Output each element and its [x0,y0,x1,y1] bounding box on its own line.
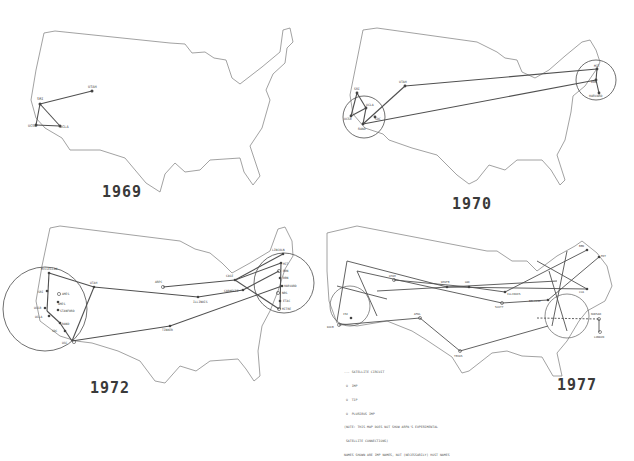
us-outline [36,226,293,383]
regional-circle-east [545,294,589,338]
svg-text:NORSAR: NORSAR [591,312,601,316]
us-network-map: McCLELLAN SRI AMES AMES UCSB STANFORD UC… [0,211,317,422]
svg-text:BBN: BBN [283,276,289,280]
network-links [36,91,92,126]
svg-text:UTAH: UTAH [389,274,396,278]
svg-text:TINKER: TINKER [162,328,173,332]
year-label: 1977 [557,376,597,394]
svg-text:CCA: CCA [579,290,584,294]
network-nodes: SRI UTAH UCSB UCLA [28,85,97,129]
year-label: 1969 [102,183,142,201]
svg-text:STANFORD: STANFORD [60,309,75,313]
svg-text:SRI: SRI [354,87,360,91]
svg-text:BBN: BBN [283,269,289,273]
network-nodes: SRI UTAH UCLA UCSB SDC RAND MIT BBN HARV… [344,64,603,131]
svg-text:ILLINOIS: ILLINOIS [193,300,208,304]
svg-text:BBN: BBN [591,80,597,84]
regional-circle-west [330,286,370,326]
map-panel-1977: UTAH ISI WPAFB GWC BBN MIT ILLINOIS TEXA… [317,211,634,422]
svg-text:TEXAS: TEXAS [454,354,463,358]
svg-text:SDC: SDC [375,117,381,121]
svg-text:UCSB: UCSB [344,117,352,121]
legend-item: O IMP [344,384,450,389]
svg-text:ILLINOIS: ILLINOIS [507,292,521,296]
us-outline [31,28,293,192]
svg-text:DOCB: DOCB [327,325,334,329]
us-network-map: SRI UTAH UCLA UCSB SDC RAND MIT BBN HARV… [317,0,634,211]
legend-note: SATELLITE CONNECTIONS) [344,439,450,444]
svg-text:SDC: SDC [52,329,58,333]
svg-text:HARVARD: HARVARD [589,94,603,98]
svg-text:BBN: BBN [579,244,584,248]
svg-text:ISI: ISI [343,312,348,316]
svg-text:MIT: MIT [594,64,600,68]
year-label: 1972 [90,379,130,397]
network-links [337,250,599,351]
svg-text:UTAH: UTAH [90,281,97,285]
svg-text:LONDON: LONDON [594,335,604,339]
svg-text:SRI: SRI [38,290,44,294]
svg-text:UCSB: UCSB [28,124,37,128]
map-panel-1972: McCLELLAN SRI AMES AMES UCSB STANFORD UC… [0,211,317,422]
svg-text:ARPC: ARPC [155,280,162,284]
svg-text:USC: USC [62,341,68,345]
svg-text:UCSB: UCSB [34,306,41,310]
svg-text:WPAFB: WPAFB [441,280,450,284]
map-panel-1969: SRI UTAH UCSB UCLA 1969 [0,0,317,211]
legend-note: (NOTE: THIS MAP DOES NOT SHOW ARPA'S EXP… [344,425,450,430]
svg-text:AMES: AMES [58,302,65,306]
svg-text:UCLA: UCLA [35,315,42,319]
svg-text:BELVOIR: BELVOIR [529,299,541,303]
legend-item: O PLURIBUS IMP [344,412,450,417]
us-outline [350,28,600,185]
network-links [351,69,599,124]
svg-text:MIT: MIT [601,254,606,258]
svg-text:UCLA: UCLA [60,125,69,129]
svg-text:RAND: RAND [62,322,69,326]
map-panel-1970: SRI UTAH UCLA UCSB SDC RAND MIT BBN HARV… [317,0,634,211]
svg-text:AFWL: AFWL [414,312,421,316]
svg-text:ETAC: ETAC [283,299,290,303]
us-network-map: SRI UTAH UCSB UCLA [0,0,317,211]
svg-text:MIT: MIT [283,262,289,266]
svg-text:McCLELLAN: McCLELLAN [41,267,57,271]
svg-text:LINCOLN: LINCOLN [272,248,285,252]
us-outline [327,226,612,376]
svg-text:HARVARD: HARVARD [284,284,297,288]
svg-text:UCLA: UCLA [366,103,374,107]
svg-text:GWC: GWC [465,280,470,284]
svg-text:MITRE: MITRE [282,307,291,311]
svg-text:SRI: SRI [37,97,44,101]
legend-item: O TIP [344,398,450,403]
svg-text:SCOTT: SCOTT [495,305,504,309]
svg-text:RAND: RAND [358,127,366,131]
map-legend: --- SATELLITE CIRCUIT O IMP O TIP O PLUR… [344,361,450,461]
svg-text:CASE: CASE [226,274,233,278]
svg-text:AMES: AMES [62,292,69,296]
svg-text:NBS: NBS [282,291,288,295]
svg-text:UTAH: UTAH [88,85,97,89]
legend-item: --- SATELLITE CIRCUIT [344,370,450,375]
svg-text:UTAH: UTAH [399,80,407,84]
legend-note: NAMES SHOWN ARE IMP NAMES, NOT (NECESSAR… [344,453,450,458]
svg-text:CARNEGIE: CARNEGIE [224,289,239,293]
